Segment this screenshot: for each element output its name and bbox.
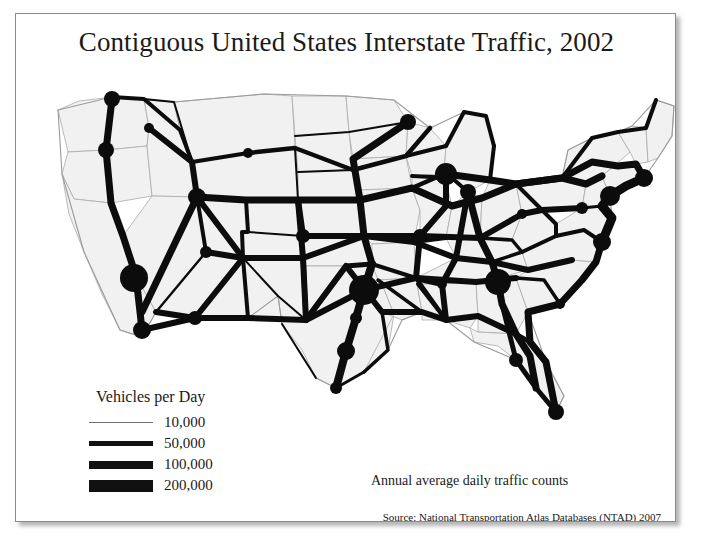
legend-label: 10,000 <box>164 414 205 431</box>
map-note: Annual average daily traffic counts <box>371 473 568 489</box>
legend-line-50000 <box>89 441 153 446</box>
legend-line-10000 <box>89 422 153 423</box>
legend-swatch-cell <box>88 422 154 423</box>
legend-title: Vehicles per Day <box>96 388 308 406</box>
legend-row: 100,000 <box>88 454 308 475</box>
map-figure: Contiguous United States Interstate Traf… <box>15 13 676 522</box>
map-legend: Vehicles per Day 10,000 50,000 100,000 2… <box>88 388 308 496</box>
legend-swatch-cell <box>88 461 154 469</box>
legend-swatch-cell <box>88 441 154 446</box>
legend-row: 50,000 <box>88 433 308 454</box>
legend-swatch-cell <box>88 480 154 492</box>
legend-row: 200,000 <box>88 475 308 496</box>
legend-label: 100,000 <box>164 456 213 473</box>
source-citation: Source: National Transportation Atlas Da… <box>383 511 661 522</box>
page-title: Contiguous United States Interstate Traf… <box>16 27 676 58</box>
legend-line-200000 <box>89 480 153 492</box>
legend-row: 10,000 <box>88 412 308 433</box>
legend-line-100000 <box>89 461 153 469</box>
legend-label: 200,000 <box>164 477 213 494</box>
legend-label: 50,000 <box>164 435 205 452</box>
